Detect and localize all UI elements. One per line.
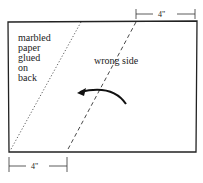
wrong-side-label: wrong side bbox=[94, 56, 138, 66]
bottom-dimension-label: 4" bbox=[31, 163, 38, 171]
fold-diagram bbox=[0, 0, 203, 183]
curved-arrow-icon bbox=[80, 90, 126, 104]
note-line: back bbox=[18, 73, 58, 83]
top-dimension bbox=[136, 9, 195, 19]
dashed-fold-line bbox=[67, 22, 136, 151]
arrowhead-icon bbox=[77, 88, 86, 96]
top-dimension-label: 4" bbox=[158, 11, 165, 19]
marbled-paper-note: marbled paper glued on back bbox=[18, 33, 58, 83]
